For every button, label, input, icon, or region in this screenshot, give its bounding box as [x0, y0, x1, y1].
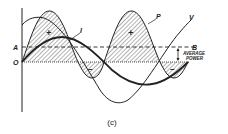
label-power: P: [156, 13, 161, 20]
sign-negative-2: −: [170, 65, 175, 74]
sign-negative-1: −: [88, 65, 93, 74]
sign-positive-2: +: [128, 28, 134, 38]
label-level-a: A: [12, 44, 18, 51]
arrow-down-icon: [177, 58, 180, 61]
arrow-up-icon: [177, 48, 180, 51]
sign-positive-1: +: [46, 28, 52, 38]
label-voltage: V: [189, 14, 195, 21]
power-leader: [148, 19, 156, 24]
label-origin: O: [13, 59, 19, 66]
label-level-b: B: [192, 44, 197, 51]
current-leader: [70, 33, 80, 40]
label-average-power-2: POWER: [186, 56, 204, 61]
power-waveform-diagram: O A B I V P AVERAGE POWER + + − − (c): [0, 0, 228, 134]
label-current: I: [80, 27, 83, 34]
figure-caption: (c): [107, 118, 117, 127]
